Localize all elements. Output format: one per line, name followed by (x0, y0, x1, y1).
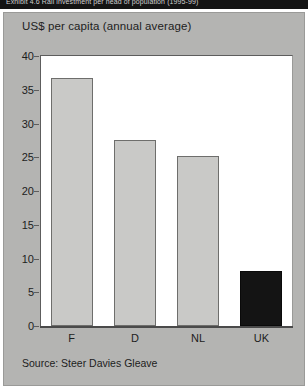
y-axis: 0510152025303540 (0, 0, 34, 389)
y-axis-tick-mark (34, 326, 39, 327)
y-axis-tick-mark (34, 191, 39, 192)
y-axis-tick-label: 20 (22, 185, 34, 197)
chart-title: US$ per capita (annual average) (22, 20, 191, 32)
x-axis-label-uk: UK (230, 332, 293, 344)
y-axis-tick-mark (34, 124, 39, 125)
bar-nl (177, 156, 219, 326)
x-axis-line (40, 326, 293, 328)
y-axis-tick-label: 30 (22, 118, 34, 130)
x-axis-label-nl: NL (167, 332, 230, 344)
source-note: Source: Steer Davies Gleave (22, 357, 157, 369)
y-axis-tick-mark (34, 56, 39, 57)
y-axis-tick-label: 10 (22, 253, 34, 265)
bar-f (51, 78, 93, 326)
y-axis-tick-label: 35 (22, 84, 34, 96)
y-axis-tick-mark (34, 259, 39, 260)
x-axis-label-d: D (103, 332, 166, 344)
bar-uk (240, 271, 282, 326)
y-axis-tick-mark (34, 90, 39, 91)
y-axis-tick-label: 25 (22, 151, 34, 163)
y-axis-tick-mark (34, 225, 39, 226)
y-axis-tick-label: 40 (22, 50, 34, 62)
x-axis-label-f: F (40, 332, 103, 344)
exhibit-caption-text: Exhibit 4.6 Rail investment per head of … (0, 0, 308, 6)
y-axis-tick-mark (34, 292, 39, 293)
bar-d (114, 140, 156, 326)
figure-container: Exhibit 4.6 Rail investment per head of … (0, 0, 308, 389)
y-axis-tick-label: 15 (22, 219, 34, 231)
exhibit-caption-banner: Exhibit 4.6 Rail investment per head of … (0, 0, 308, 9)
y-axis-tick-mark (34, 157, 39, 158)
